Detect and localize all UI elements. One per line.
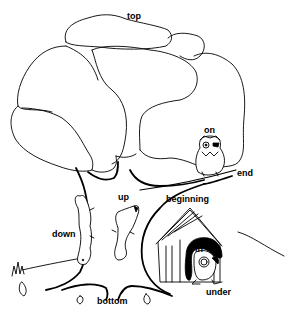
label-beginning: beginning xyxy=(166,195,209,204)
label-up: up xyxy=(118,193,129,202)
squirrel-up xyxy=(112,205,139,260)
label-bottom: bottom xyxy=(97,297,128,306)
grass-tuft xyxy=(12,262,24,276)
label-on: on xyxy=(204,126,215,135)
owl xyxy=(196,136,225,176)
label-in: in xyxy=(195,245,203,254)
illustration-drawing xyxy=(0,0,292,315)
label-under: under xyxy=(206,288,231,297)
positional-words-illustration: top on end beginning up down in under bo… xyxy=(0,0,292,315)
label-top: top xyxy=(127,12,141,21)
squirrel-down xyxy=(75,195,94,264)
label-end: end xyxy=(237,169,253,178)
label-down: down xyxy=(52,230,76,239)
